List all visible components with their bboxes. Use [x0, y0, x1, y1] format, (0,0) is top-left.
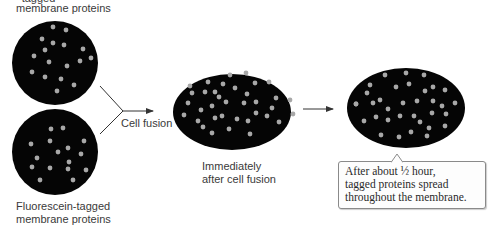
protein-dot: [221, 82, 226, 87]
cell-membrane: [12, 21, 98, 105]
middle-label-line2: after cell fusion: [202, 173, 276, 186]
protein-dot: [51, 41, 56, 46]
protein-dot: [220, 114, 225, 119]
protein-dot: [182, 113, 187, 118]
protein-dot: [274, 96, 279, 101]
protein-dot: [423, 89, 428, 94]
protein-dot: [404, 71, 409, 76]
protein-dot: [51, 25, 56, 30]
bottom-cell: [12, 109, 98, 195]
protein-dot: [386, 107, 391, 112]
protein-dot: [422, 73, 427, 78]
protein-dot: [47, 60, 52, 65]
protein-dot: [213, 116, 218, 121]
protein-dot: [265, 114, 270, 119]
protein-dot: [217, 95, 222, 100]
cell-fusion-label: Cell fusion: [121, 117, 172, 130]
protein-dot: [43, 48, 48, 53]
bottom-cell-label-line1: Fluorescein-tagged: [16, 200, 110, 213]
protein-dot: [78, 59, 83, 64]
protein-dot: [64, 28, 69, 33]
cell-membrane: [347, 68, 465, 148]
protein-dot: [365, 91, 370, 96]
protein-dot: [43, 75, 48, 80]
protein-dot: [48, 139, 53, 144]
protein-dot: [398, 114, 403, 119]
protein-dot: [56, 150, 61, 155]
protein-dot: [210, 104, 215, 109]
protein-dot: [378, 98, 383, 103]
protein-dot: [65, 64, 70, 69]
protein-dot: [242, 101, 247, 106]
callout-line3: throughout the membrane.: [345, 191, 467, 204]
callout-line1: After about ½ hour,: [345, 165, 467, 178]
protein-dot: [40, 37, 45, 42]
top-cell-label: membrane proteins: [16, 2, 111, 15]
protein-dot: [453, 101, 458, 106]
protein-dot: [29, 142, 34, 147]
protein-dot: [254, 111, 259, 116]
protein-dot: [409, 130, 414, 135]
protein-dot: [235, 117, 240, 122]
callout-text: After about ½ hour, tagged proteins spre…: [345, 165, 467, 204]
protein-dot: [245, 92, 250, 97]
middle-fused-cell: [173, 71, 295, 150]
protein-dot: [62, 43, 67, 48]
protein-dot: [89, 56, 94, 61]
protein-dot: [186, 101, 191, 106]
protein-dot: [66, 167, 71, 172]
protein-dot: [407, 82, 412, 87]
protein-dot: [248, 132, 253, 137]
protein-dot: [72, 83, 77, 88]
protein-dot: [443, 124, 448, 129]
protein-dot: [55, 89, 60, 94]
protein-dot: [270, 106, 275, 111]
protein-dot: [71, 178, 76, 183]
protein-dot: [244, 71, 249, 76]
top-cell: [12, 21, 98, 105]
protein-dot: [210, 131, 215, 136]
protein-dot: [425, 134, 430, 139]
protein-dot: [67, 160, 72, 165]
protein-dot: [224, 100, 229, 105]
protein-dot: [190, 91, 195, 96]
fusion-arrow-upper-branch: [100, 86, 123, 111]
protein-dot: [228, 73, 233, 78]
protein-dot: [206, 80, 211, 85]
protein-dot: [233, 86, 238, 91]
protein-dot: [291, 112, 296, 117]
protein-dot: [401, 101, 406, 106]
protein-dot: [227, 127, 232, 132]
protein-dot: [213, 90, 218, 95]
protein-dot: [379, 133, 384, 138]
protein-dot: [61, 126, 66, 131]
protein-dot: [199, 108, 204, 113]
protein-dot: [246, 119, 251, 124]
protein-dot: [32, 54, 37, 59]
protein-dot: [30, 70, 35, 75]
protein-dot: [430, 111, 435, 116]
protein-dot: [386, 118, 391, 123]
protein-dot: [354, 102, 359, 107]
protein-dot: [188, 84, 193, 89]
protein-dot: [49, 127, 54, 132]
protein-dot: [431, 85, 436, 90]
protein-dot: [253, 81, 258, 86]
protein-dot: [59, 77, 64, 82]
protein-dot: [203, 90, 208, 95]
protein-dot: [267, 80, 272, 85]
protein-dot: [368, 83, 373, 88]
protein-dot: [444, 112, 449, 117]
protein-dot: [362, 119, 367, 124]
protein-dot: [431, 99, 436, 104]
middle-label-line1: Immediately: [202, 160, 261, 173]
fusion-arrow-lower-branch: [100, 111, 123, 134]
protein-dot: [81, 47, 86, 52]
protein-dot: [394, 85, 399, 90]
protein-dot: [371, 101, 376, 106]
protein-dot: [440, 104, 445, 109]
protein-dot: [374, 115, 379, 120]
protein-dot: [415, 99, 420, 104]
protein-dot: [30, 165, 35, 170]
protein-dot: [397, 135, 402, 140]
